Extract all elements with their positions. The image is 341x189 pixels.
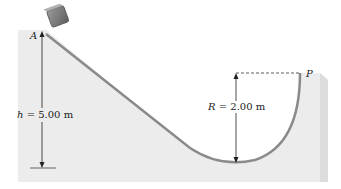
height-symbol: h [17,109,23,120]
arrow-up-icon [234,73,239,79]
slab-edge-shadow [320,73,328,182]
radius-label: R = 2.00 m [208,102,265,112]
radius-value: 2.00 m [230,101,265,112]
radius-symbol: R [208,101,216,112]
height-label: h = 5.00 m [17,110,73,120]
height-value: 5.00 m [38,109,73,120]
point-p-label: P [306,69,313,79]
block [44,3,70,29]
diagram-canvas [0,0,341,189]
height-equals: = [27,109,35,120]
point-a-label: A [30,31,37,41]
radius-equals: = [219,101,227,112]
ground-slab [18,30,328,182]
